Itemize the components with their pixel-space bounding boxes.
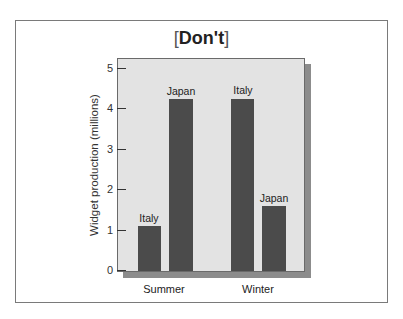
ytick-label-4: 4 — [99, 102, 113, 114]
bar-winter-italy — [231, 99, 254, 271]
bar-label-winter-italy: Italy — [223, 84, 263, 96]
title-word: Don't — [179, 28, 224, 48]
plot-shadow-right — [305, 64, 311, 278]
bar-winter-japan — [262, 206, 286, 271]
ytick-0 — [117, 270, 126, 271]
ytick-1 — [117, 230, 126, 231]
xtick-label-winter: Winter — [228, 283, 288, 295]
ytick-3 — [117, 149, 126, 150]
chart-title: [Don't] — [0, 28, 403, 49]
xtick-label-summer: Summer — [134, 283, 194, 295]
bar-label-summer-italy: Italy — [129, 212, 169, 224]
y-axis-label: Widget production (millions) — [88, 80, 100, 250]
bar-summer-italy — [138, 226, 161, 271]
bar-summer-japan — [169, 99, 193, 271]
plot-shadow-bottom — [123, 272, 311, 278]
title-close-bracket: ] — [224, 28, 229, 48]
ytick-5 — [117, 68, 126, 69]
ytick-4 — [117, 108, 126, 109]
ytick-label-1: 1 — [99, 224, 113, 236]
ytick-label-3: 3 — [99, 143, 113, 155]
bar-label-winter-japan: Japan — [254, 192, 294, 204]
ytick-label-2: 2 — [99, 183, 113, 195]
ytick-2 — [117, 189, 126, 190]
ytick-label-5: 5 — [99, 62, 113, 74]
bar-label-summer-japan: Japan — [161, 85, 201, 97]
ytick-label-0: 0 — [99, 264, 113, 276]
